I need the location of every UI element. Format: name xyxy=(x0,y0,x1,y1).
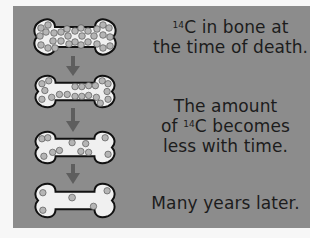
arrow-down-icon xyxy=(66,164,80,184)
diagram-panel: 14C in bone at the time of death. The am… xyxy=(13,6,310,228)
caption-many-years-later: Many years later. xyxy=(141,193,310,213)
arrow-down-icon xyxy=(66,108,80,132)
bone-stage-2-icon xyxy=(31,74,119,109)
isotope-mass-number: 14 xyxy=(183,119,195,129)
arrow-down-icon xyxy=(66,56,80,76)
bone-stage-3-icon xyxy=(31,130,119,165)
caption-line: of xyxy=(161,116,183,136)
caption-time-of-death: 14C in bone at the time of death. xyxy=(151,17,310,57)
caption-decay-over-time: The amount of 14C becomes less with time… xyxy=(141,96,310,156)
caption-line: the time of death. xyxy=(151,37,310,57)
bone-stage-1-icon xyxy=(31,17,119,57)
caption-line: C in bone at xyxy=(184,17,288,37)
caption-line: less with time. xyxy=(141,136,310,156)
caption-line: Many years later. xyxy=(141,193,310,213)
isotope-mass-number: 14 xyxy=(173,20,185,30)
bone-stage-4-icon xyxy=(31,182,119,219)
caption-line: C becomes xyxy=(195,116,290,136)
caption-line: The amount xyxy=(141,96,310,116)
